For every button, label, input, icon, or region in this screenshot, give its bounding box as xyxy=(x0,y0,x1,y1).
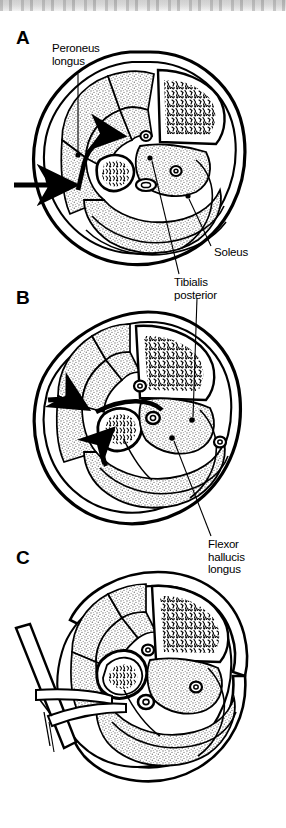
anatomy-illustration xyxy=(0,0,286,828)
figure-root: A B C Peroneus longus Soleus Tibialis po… xyxy=(0,0,286,828)
panel-c-fibula xyxy=(97,650,147,698)
panel-b-flexor-hallucis-dot xyxy=(169,435,175,441)
panel-a-drawing xyxy=(14,52,245,274)
leader-dot-peroneus-longus xyxy=(75,152,80,157)
panel-b-tibialis-posterior-dot xyxy=(189,417,195,423)
panel-b-drawing xyxy=(34,298,240,536)
panel-a-tibialis-posterior-dot xyxy=(147,155,152,160)
panel-c-drawing xyxy=(16,572,247,781)
panel-a-fibula xyxy=(97,155,134,191)
panel-a-soleus-dot xyxy=(185,193,190,198)
